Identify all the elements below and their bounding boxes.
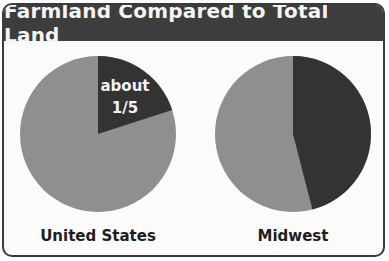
us-pie-label: United States bbox=[18, 227, 178, 245]
annotation-line2: 1/5 bbox=[95, 97, 155, 119]
pie-midwest bbox=[215, 56, 371, 212]
midwest-pie-label: Midwest bbox=[213, 227, 373, 245]
pie-charts bbox=[0, 0, 389, 261]
us-farmland-annotation: about 1/5 bbox=[95, 75, 155, 119]
annotation-line1: about bbox=[95, 75, 155, 97]
